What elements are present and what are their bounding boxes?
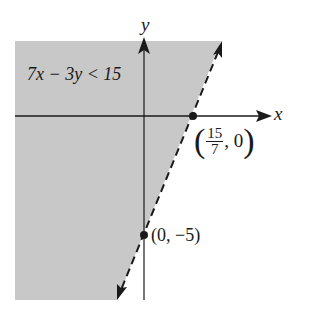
x-axis-label: x [274,103,282,125]
inequality-label: 7x − 3y < 15 [27,64,121,85]
x-intercept-label: ( 15 7 , 0 ) [194,124,255,158]
fraction-numerator: 15 [206,126,223,142]
y-intercept-label: (0, −5) [151,225,200,246]
y-axis-label: y [141,14,149,36]
fraction-denominator: 7 [211,142,219,157]
x-intercept-point [189,112,197,120]
y-intercept-point [140,231,148,239]
x-intercept-rest: , 0 [224,130,243,152]
